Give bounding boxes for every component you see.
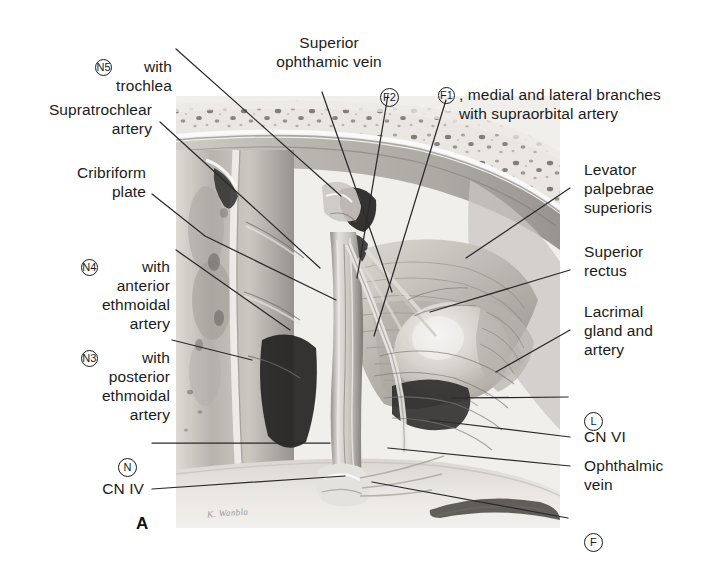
label-superior-rectus: Superior rectus (584, 242, 724, 280)
label-supratrochlear-artery: Supratrochlear artery (0, 100, 152, 138)
figure-letter: A (136, 514, 148, 534)
badge-f: F (584, 533, 603, 552)
label-cn3-text: with posterior ethmoidal artery (102, 348, 170, 424)
label-l-lacrimal: L (584, 387, 603, 429)
label-f1-supraorbital: F1 , medial and lateral branches with su… (438, 66, 724, 142)
badge-n4: N4 (81, 259, 98, 276)
badge-n5: N5 (95, 59, 112, 76)
label-cn-iv: CN IV (0, 479, 144, 498)
label-n-nasociliary: N (118, 433, 137, 475)
badge-f1: F1 (438, 87, 455, 104)
label-cn3-posterior-ethmoidal: N3 with posterior ethmoidal artery (0, 329, 170, 443)
label-cribriform-plate: Cribriform plate (0, 163, 146, 201)
label-cn4-text: with anterior ethmoidal artery (102, 257, 170, 333)
label-levator-palpebrae: Levator palpebrae superioris (584, 160, 724, 217)
label-ophthalmic-vein: Ophthalmic vein (584, 456, 724, 494)
anatomical-figure: N5 with trochlea Supratrochlear artery C… (0, 0, 726, 568)
label-f1-text: , medial and lateral branches with supra… (459, 85, 661, 123)
label-f-frontal: F (584, 508, 603, 550)
badge-n3: N3 (81, 350, 98, 367)
badge-f2: F2 (380, 88, 399, 107)
badge-n: N (118, 458, 137, 477)
label-lacrimal-gland: Lacrimal gland and artery (584, 302, 724, 359)
label-cn5-trochlea-text: with trochlea (116, 57, 172, 95)
label-cn-vi: CN VI (584, 427, 724, 446)
label-f2: F2 (380, 63, 399, 105)
